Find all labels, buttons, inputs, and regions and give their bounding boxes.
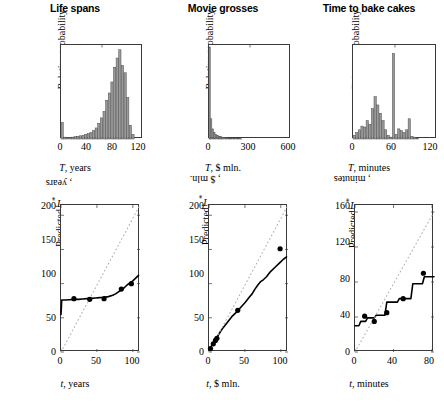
x-axis-label: t, years bbox=[0, 378, 150, 389]
y-tick-200: 200 bbox=[28, 200, 56, 211]
series-layer bbox=[61, 205, 140, 352]
panel-title: Movie grosses bbox=[148, 2, 298, 14]
x-tick-0: 0 bbox=[58, 141, 63, 152]
series-layer bbox=[209, 205, 288, 352]
y-tick-40: 40 bbox=[320, 309, 350, 320]
y-tick-50: 50 bbox=[176, 312, 204, 323]
y-tick-160: 160 bbox=[320, 200, 350, 211]
x-tick-2: 80 bbox=[107, 141, 117, 152]
x-axis-label: T, $ mln. bbox=[148, 162, 298, 173]
x-tick-1: 300 bbox=[241, 141, 256, 152]
y-tick-80: 80 bbox=[320, 273, 350, 284]
panel-hist-life-spans: Life spans Relative probability 0 40 80 … bbox=[0, 2, 150, 180]
x-tick-100: 100 bbox=[273, 355, 288, 366]
x-tick-0: 0 bbox=[206, 355, 211, 366]
x-axis-label: t, minutes bbox=[294, 378, 444, 389]
x-tick-100: 100 bbox=[125, 355, 140, 366]
y-tick-0: 0 bbox=[28, 346, 56, 357]
y-tick-100: 100 bbox=[28, 268, 56, 279]
y-tick-200: 200 bbox=[176, 200, 204, 211]
x-axis-label: T, years bbox=[0, 162, 150, 173]
y-tick-50: 50 bbox=[28, 312, 56, 323]
x-tick-0: 0 bbox=[352, 355, 357, 366]
x-axis-label-rest: , years bbox=[63, 378, 89, 389]
x-axis-label-rest: , $ mln. bbox=[209, 378, 240, 389]
x-axis-label-rest: , minutes bbox=[353, 162, 390, 173]
panel-title: Time to bake cakes bbox=[294, 2, 444, 14]
y-tick-0: 0 bbox=[320, 346, 350, 357]
histogram-bars bbox=[353, 45, 437, 139]
panel-pred-movie-grosses: Predicted T*, $ mln. 200 150 100 50 0 0 … bbox=[148, 190, 298, 420]
plot-area bbox=[208, 44, 290, 138]
y-tick-0: 0 bbox=[176, 346, 204, 357]
panel-hist-bake-cakes: Time to bake cakes Relative probability … bbox=[294, 2, 444, 180]
plot-area bbox=[354, 204, 433, 351]
plot-area bbox=[208, 204, 287, 351]
y-axis-label: Relative probability bbox=[170, 44, 186, 140]
y-tick-150: 150 bbox=[176, 234, 204, 245]
histogram-bars bbox=[61, 45, 143, 139]
series-layer bbox=[355, 205, 434, 352]
panel-pred-life-spans: Predicted T*, years 200 150 100 50 0 0 5… bbox=[0, 190, 150, 420]
x-tick-0: 0 bbox=[206, 141, 211, 152]
plot-area bbox=[352, 44, 436, 138]
x-axis-label-rest: , minutes bbox=[352, 378, 389, 389]
panel-pred-bake-cakes: Predicted T*, minutes 160 120 80 40 0 0 … bbox=[294, 190, 444, 420]
x-tick-50: 50 bbox=[239, 355, 249, 366]
x-axis-label-rest: , $ mln. bbox=[211, 162, 242, 173]
panel-hist-movie-grosses: Movie grosses Relative probability 0 300… bbox=[148, 2, 298, 180]
x-tick-40: 40 bbox=[387, 355, 397, 366]
y-axis-label: Relative probability bbox=[316, 44, 332, 140]
x-tick-0: 0 bbox=[58, 355, 63, 366]
x-tick-3: 120 bbox=[131, 141, 146, 152]
figure-panel-grid: Life spans Relative probability 0 40 80 … bbox=[0, 0, 444, 420]
plot-area bbox=[60, 44, 142, 138]
x-tick-2: 120 bbox=[423, 141, 438, 152]
x-axis-label: t, $ mln. bbox=[148, 378, 298, 389]
y-tick-100: 100 bbox=[176, 268, 204, 279]
x-tick-0: 0 bbox=[350, 141, 355, 152]
x-axis-label: T, minutes bbox=[294, 162, 444, 173]
y-tick-120: 120 bbox=[320, 236, 350, 247]
plot-area bbox=[60, 204, 139, 351]
x-tick-80: 80 bbox=[424, 355, 434, 366]
y-tick-150: 150 bbox=[28, 234, 56, 245]
x-axis-label-rest: , years bbox=[65, 162, 91, 173]
x-tick-1: 40 bbox=[81, 141, 91, 152]
y-axis-label: Relative probability bbox=[22, 44, 38, 140]
x-tick-1: 60 bbox=[386, 141, 396, 152]
panel-title: Life spans bbox=[0, 2, 150, 14]
x-tick-50: 50 bbox=[91, 355, 101, 366]
histogram-bars bbox=[209, 45, 291, 139]
